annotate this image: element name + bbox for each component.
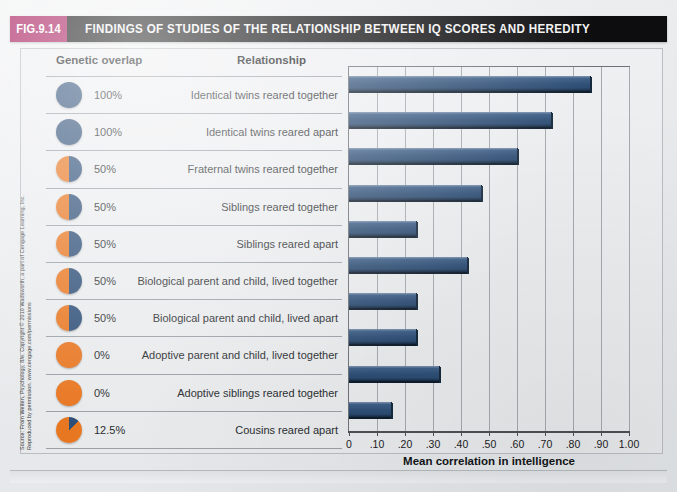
x-axis-tick: [405, 431, 406, 436]
relationship-label: Identical twins reared together: [191, 89, 338, 101]
x-axis-tick-label: .20: [398, 438, 413, 450]
x-axis-tick: [573, 431, 574, 436]
table-row: 50%Fraternal twins reared together: [46, 150, 342, 187]
genetic-overlap-value: 50%: [94, 312, 116, 324]
genetic-overlap-pie-icon: [56, 82, 82, 108]
relationship-row-list: 100%Identical twins reared together100%I…: [46, 76, 342, 449]
relationship-table: Genetic overlap Relationship 100%Identic…: [46, 54, 342, 450]
figure-title-bar: FIG.9.14 FINDINGS OF STUDIES OF THE RELA…: [10, 16, 667, 42]
x-axis-tick: [517, 431, 518, 436]
relationship-label: Adoptive siblings reared together: [177, 387, 338, 399]
relationship-label: Adoptive parent and child, lived togethe…: [142, 349, 338, 361]
bar: [349, 112, 551, 127]
table-row: 12.5%Cousins reared apart: [46, 411, 342, 449]
x-axis-tick-label: .40: [454, 438, 469, 450]
table-row: 0%Adoptive parent and child, lived toget…: [46, 336, 342, 373]
genetic-overlap-value: 50%: [94, 275, 116, 287]
x-axis-tick-label: .60: [510, 438, 525, 450]
x-axis-tick: [489, 431, 490, 436]
relationship-label: Cousins reared apart: [235, 424, 338, 436]
x-axis-tick: [545, 431, 546, 436]
x-axis-tick-label: .90: [594, 438, 609, 450]
genetic-overlap-pie-icon: [56, 380, 82, 406]
x-axis-tick: [433, 431, 434, 436]
genetic-overlap-pie-icon: [56, 417, 82, 443]
bar: [349, 185, 481, 200]
table-row: 50%Biological parent and child, lived to…: [46, 262, 342, 299]
genetic-overlap-value: 0%: [94, 349, 110, 361]
genetic-overlap-value: 50%: [94, 238, 116, 250]
bar: [349, 402, 391, 417]
x-axis-tick-label: .80: [566, 438, 581, 450]
x-axis-tick: [377, 431, 378, 436]
gridline: [629, 67, 630, 431]
table-row: 50%Siblings reared together: [46, 188, 342, 225]
genetic-overlap-value: 0%: [94, 387, 110, 399]
bar-row: [349, 320, 629, 356]
x-axis-tick: [629, 431, 630, 436]
genetic-overlap-pie-icon: [56, 194, 82, 220]
genetic-overlap-pie-icon: [56, 268, 82, 294]
bar-row: [349, 357, 629, 393]
genetic-overlap-value: 50%: [94, 163, 116, 175]
relationship-label: Biological parent and child, lived toget…: [137, 275, 338, 287]
table-row: 100%Identical twins reared apart: [46, 113, 342, 150]
source-credit-line1: Source: From Weiten, Psychology, 8/e. Co…: [19, 150, 26, 450]
x-axis-label: Mean correlation in intelligence: [403, 455, 575, 467]
genetic-overlap-pie-icon: [56, 119, 82, 145]
column-header-genetic-overlap: Genetic overlap: [56, 54, 142, 74]
table-row: 50%Biological parent and child, lived ap…: [46, 299, 342, 336]
x-axis-tick-label: .70: [538, 438, 553, 450]
x-axis-tick-label: .30: [426, 438, 441, 450]
relationship-label: Biological parent and child, lived apart: [153, 312, 338, 324]
bar-row: [349, 103, 629, 139]
relationship-label: Fraternal twins reared together: [188, 163, 338, 175]
genetic-overlap-value: 100%: [94, 126, 122, 138]
bar-row: [349, 67, 629, 103]
x-axis-tick: [349, 431, 350, 436]
figure-footer-rule: [10, 470, 667, 483]
column-header-relationship: Relationship: [237, 54, 306, 74]
relationship-label: Siblings reared together: [221, 201, 338, 213]
table-row: 0%Adoptive siblings reared together: [46, 374, 342, 411]
genetic-overlap-value: 100%: [94, 89, 122, 101]
bar: [349, 293, 416, 308]
bar: [349, 257, 467, 272]
bar-row: [349, 176, 629, 212]
relationship-label: Siblings reared apart: [236, 238, 338, 250]
bar: [349, 221, 416, 236]
bar-chart-plot-area: 0.10.20.30.40.50.60.70.80.901.00 Mean co…: [348, 66, 630, 431]
figure-number: FIG.9.14: [10, 16, 67, 42]
bar: [349, 76, 590, 91]
x-axis-tick: [461, 431, 462, 436]
bar: [349, 366, 439, 381]
table-row: 50%Siblings reared apart: [46, 225, 342, 262]
source-credit-line2: Reproduced by permission. www.cengage.co…: [26, 150, 33, 450]
genetic-overlap-pie-icon: [56, 231, 82, 257]
genetic-overlap-value: 50%: [94, 201, 116, 213]
x-axis-tick: [601, 431, 602, 436]
bar-row: [349, 248, 629, 284]
bar-row: [349, 139, 629, 175]
table-row: 100%Identical twins reared together: [46, 76, 342, 113]
bar-row: [349, 284, 629, 320]
relationship-label: Identical twins reared apart: [206, 126, 338, 138]
bar: [349, 148, 517, 163]
figure-title: FINDINGS OF STUDIES OF THE RELATIONSHIP …: [72, 16, 590, 42]
source-credit: Source: From Weiten, Psychology, 8/e. Co…: [19, 150, 34, 450]
bar-row: [349, 212, 629, 248]
genetic-overlap-pie-icon: [56, 156, 82, 182]
x-axis-tick-label: 0: [346, 438, 352, 450]
x-axis-tick-label: .50: [482, 438, 497, 450]
x-axis-tick-label: 1.00: [619, 438, 639, 450]
genetic-overlap-pie-icon: [56, 342, 82, 368]
bar-row: [349, 393, 629, 429]
x-axis-tick-label: .10: [370, 438, 385, 450]
genetic-overlap-value: 12.5%: [94, 424, 125, 436]
genetic-overlap-pie-icon: [56, 305, 82, 331]
figure-page: FIG.9.14 FINDINGS OF STUDIES OF THE RELA…: [0, 0, 677, 492]
bar: [349, 329, 416, 344]
